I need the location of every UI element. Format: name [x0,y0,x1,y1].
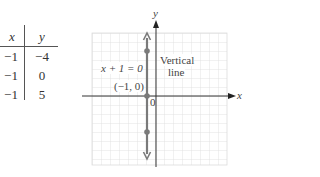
y-axis-arrow-icon [153,20,159,28]
equation-label: x + 1 = 0 [101,62,143,74]
point-neg1-0 [144,93,150,99]
point-label: (−1, 0) [114,80,144,92]
x-axis-label: x [237,89,242,101]
x-axis-arrow-icon [228,93,236,99]
grid [92,33,227,165]
point-neg1-neg4 [144,129,150,135]
annotation-vertical: Vertical [160,54,194,66]
point-neg1-5 [144,48,150,54]
y-axis-label: y [153,7,158,19]
origin-label: 0 [150,96,156,108]
annotation-line: line [168,66,185,78]
